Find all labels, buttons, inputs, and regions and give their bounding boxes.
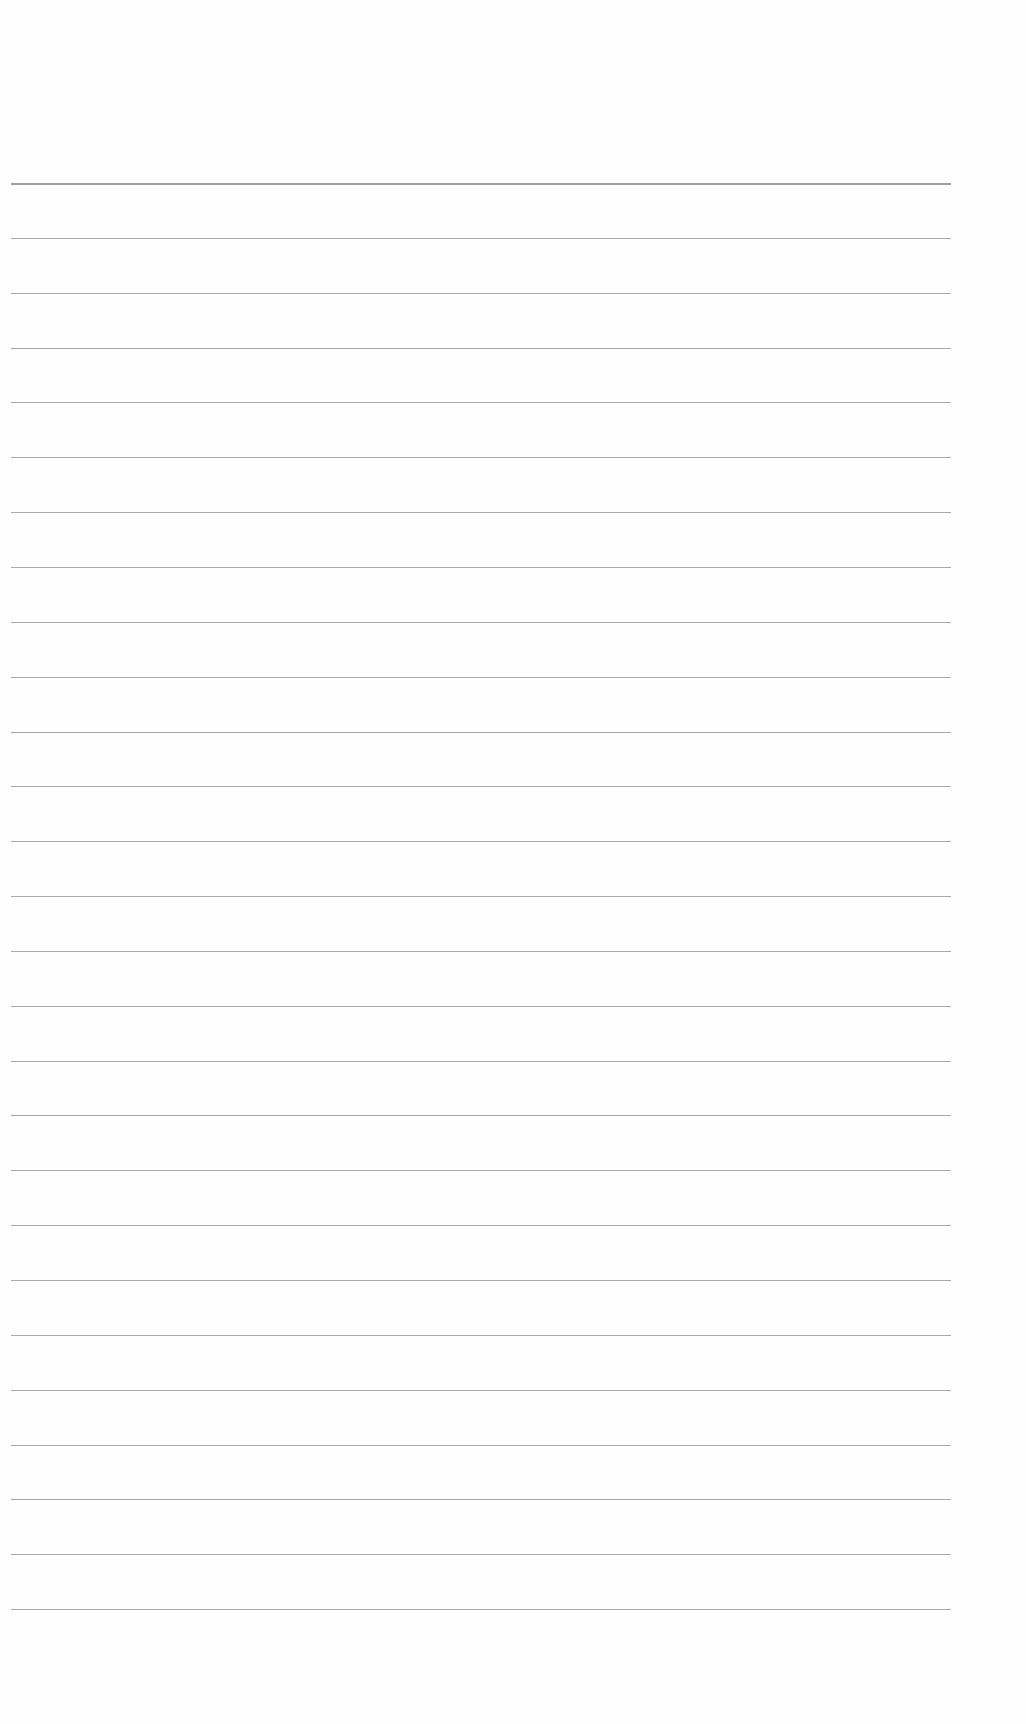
ruled-line (11, 841, 951, 842)
ruled-line (11, 677, 951, 678)
ruled-line (11, 1609, 951, 1610)
ruled-line (11, 238, 951, 239)
ruled-line (11, 1280, 951, 1281)
ruled-line (11, 293, 951, 294)
ruled-line (11, 1006, 951, 1007)
ruled-line (11, 567, 951, 568)
ruled-line (11, 622, 951, 623)
ruled-line (11, 786, 951, 787)
ruled-line (11, 512, 951, 513)
ruled-line (11, 1061, 951, 1062)
lined-paper-page (0, 0, 1026, 1724)
ruled-line (11, 183, 951, 185)
ruled-line (11, 1445, 951, 1446)
ruled-line (11, 1115, 951, 1116)
ruled-line (11, 402, 951, 403)
ruled-line (11, 1170, 951, 1171)
ruled-line (11, 1554, 951, 1555)
ruled-line (11, 896, 951, 897)
ruled-line (11, 732, 951, 733)
ruled-line (11, 1225, 951, 1226)
ruled-line (11, 1390, 951, 1391)
ruled-line (11, 1335, 951, 1336)
ruled-line (11, 951, 951, 952)
ruled-line (11, 457, 951, 458)
ruled-line (11, 348, 951, 349)
ruled-line (11, 1499, 951, 1500)
